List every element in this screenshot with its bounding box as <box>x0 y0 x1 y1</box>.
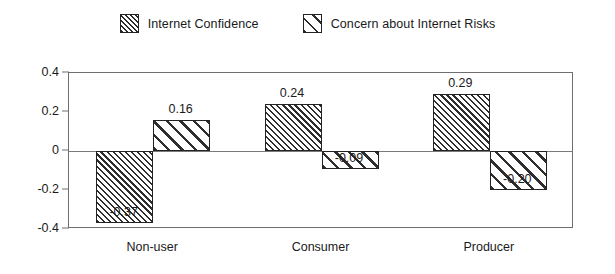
bar-value-label: -0.20 <box>503 172 532 186</box>
bar-value-label: 0.29 <box>448 76 472 90</box>
chart-annotations: -0.370.16Non-user0.24-0.09Consumer0.29-0… <box>0 0 615 274</box>
bar-value-label: -0.09 <box>335 151 364 165</box>
bar-value-label: 0.16 <box>168 102 192 116</box>
bar-value-label: 0.24 <box>280 86 304 100</box>
x-axis-category-label: Producer <box>463 240 514 254</box>
bar-chart: Internet Confidence Concern about Intern… <box>0 0 615 274</box>
x-axis-category-label: Non-user <box>126 240 177 254</box>
x-axis-category-label: Consumer <box>292 240 350 254</box>
bar-value-label: -0.37 <box>109 205 138 219</box>
